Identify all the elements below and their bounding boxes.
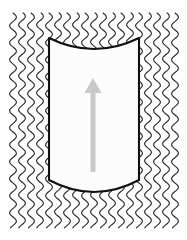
figure-canvas xyxy=(0,0,187,240)
figure-container xyxy=(0,0,187,240)
